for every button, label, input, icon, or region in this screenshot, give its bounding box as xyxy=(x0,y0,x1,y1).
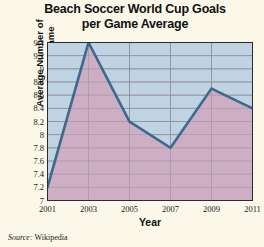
source-prefix: Source: xyxy=(8,233,33,242)
y-axis-tick-label: 8.2 xyxy=(33,117,44,126)
y-axis-tick-label: 9 xyxy=(40,64,44,73)
area-chart-svg xyxy=(47,42,253,201)
y-axis-tick-label: 8.6 xyxy=(33,91,44,100)
x-axis-title: Year xyxy=(47,216,253,228)
y-axis-tick-label: 7.4 xyxy=(33,170,44,179)
x-axis-tick-label: 2009 xyxy=(203,204,220,214)
y-axis-tick-label: 9.2 xyxy=(33,51,44,60)
x-axis-tick-label: 2011 xyxy=(244,204,261,214)
x-axis-tick-labels: 200120032005200720092011 xyxy=(47,204,253,216)
plot-area xyxy=(47,42,253,201)
source-note: Source: Wikipedia xyxy=(8,233,67,242)
x-axis-tick-label: 2007 xyxy=(162,204,179,214)
y-axis-tick-label: 8.4 xyxy=(33,104,44,113)
chart-container: Beach Soccer World Cup Goals per Game Av… xyxy=(0,0,264,247)
y-axis-tick-label: 8.8 xyxy=(33,78,44,87)
y-axis-tick-labels: 9.49.298.88.68.48.287.87.67.47.27 xyxy=(18,42,44,201)
y-axis-tick-label: 7.8 xyxy=(33,143,44,152)
y-axis-tick-label: 7.6 xyxy=(33,157,44,166)
x-axis-tick-label: 2001 xyxy=(39,204,56,214)
x-axis-tick-label: 2003 xyxy=(80,204,97,214)
y-axis-tick-label: 8 xyxy=(40,130,44,139)
x-axis-tick-label: 2005 xyxy=(121,204,138,214)
source-value: Wikipedia xyxy=(34,233,67,242)
y-axis-tick-label: 7.2 xyxy=(33,183,44,192)
y-axis-tick-label: 9.4 xyxy=(33,38,44,47)
